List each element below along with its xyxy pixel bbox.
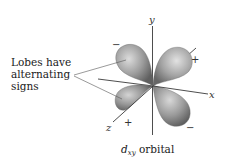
lobe-upper-right <box>153 47 192 86</box>
lobe-lower-right <box>153 86 190 126</box>
callout-line-3: signs <box>11 80 71 92</box>
callout-line-2: alternating <box>11 68 71 80</box>
orbital-word: orbital <box>139 143 174 155</box>
callout-line-1: Lobes have <box>11 56 71 68</box>
orbital-symbol: d <box>121 143 128 155</box>
orbital-subscript: xy <box>128 149 136 157</box>
sign-lower-right: − <box>186 122 194 133</box>
sign-lower-left: + <box>124 117 132 128</box>
sign-upper-left: − <box>112 39 120 50</box>
y-axis-label: y <box>148 14 155 25</box>
lobe-upper-left <box>116 44 153 86</box>
sign-upper-right: + <box>191 54 199 65</box>
callout-label: Lobes have alternating signs <box>11 56 71 92</box>
lobe-lower-left <box>115 85 153 110</box>
callout-line-upper <box>74 60 126 75</box>
z-axis-label: z <box>105 122 112 133</box>
x-axis-label: x <box>209 89 215 100</box>
orbital-caption: dxy orbital <box>121 143 174 157</box>
